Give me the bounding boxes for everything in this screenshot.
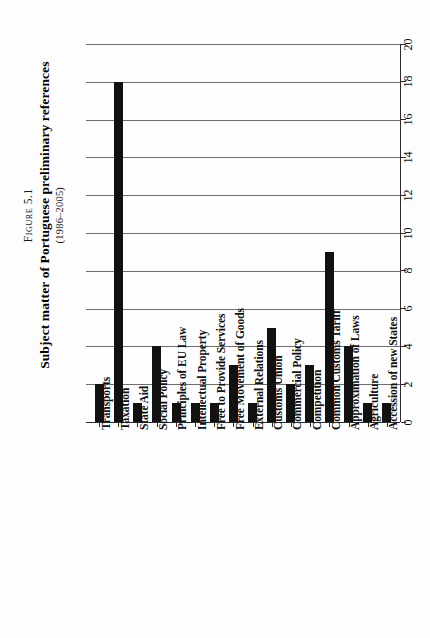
value-tick-label: 4 <box>401 343 416 349</box>
category-slot: Free to Provide Services <box>205 426 224 598</box>
category-slot: Commercial Policy <box>282 426 301 598</box>
value-tick-label: 16 <box>401 114 416 126</box>
category-slot: Free Movement of Goods <box>224 426 243 598</box>
category-label: Common Customs Tariff <box>330 310 342 430</box>
category-slot: Principles of EU Law <box>167 426 186 598</box>
value-tick-label: 20 <box>401 38 416 50</box>
category-slot: Taxation <box>109 426 128 598</box>
category-slot: Social Policy <box>148 426 167 598</box>
bar-slot <box>300 44 319 422</box>
bar[interactable] <box>114 82 123 422</box>
value-tick-label: 6 <box>401 306 416 312</box>
category-slot: External Relations <box>244 426 263 598</box>
category-label: Free Movement of Goods <box>234 308 246 430</box>
bar-slot <box>109 44 128 422</box>
category-label: Taxation <box>119 388 131 430</box>
figure-number-label: Figure 5.1 <box>21 61 35 368</box>
category-slot: State Aid <box>128 426 147 598</box>
category-slot: Intellectual Property <box>186 426 205 598</box>
category-slot: Customs Union <box>263 426 282 598</box>
category-label: Commercial Policy <box>291 338 303 430</box>
category-label: Agriculture <box>368 374 380 430</box>
category-label: Transports <box>100 377 112 430</box>
category-axis-labels: TransportsTaxationState AidSocial Policy… <box>86 426 401 598</box>
value-tick-label: 18 <box>401 76 416 88</box>
category-slot: Accession of new States <box>378 426 397 598</box>
category-label: Customs Union <box>272 356 284 430</box>
category-label: Competition <box>311 370 323 430</box>
figure-title-block: Figure 5.1 Subject matter of Portuguese … <box>12 0 76 430</box>
bar-slot <box>90 44 109 422</box>
category-slot: Transports <box>90 426 109 598</box>
figure-subtitle: (1986–2005) <box>54 61 67 368</box>
category-slot: Common Customs Tariff <box>320 426 339 598</box>
bar-slot <box>128 44 147 422</box>
category-label: Approximation of Laws <box>349 315 361 430</box>
bar-slot <box>147 44 166 422</box>
value-tick-label: 12 <box>401 189 416 201</box>
figure-page: Figure 5.1 Subject matter of Portuguese … <box>0 0 430 638</box>
category-label: Intellectual Property <box>196 330 208 430</box>
value-tick-label: 2 <box>401 381 416 387</box>
value-tick-label: 8 <box>401 268 416 274</box>
category-label: State Aid <box>138 386 150 430</box>
value-tick-label: 14 <box>401 151 416 163</box>
category-label: Social Policy <box>157 369 169 430</box>
value-tick-label: 10 <box>401 227 416 239</box>
category-label: Principles of EU Law <box>176 327 188 430</box>
category-slot: Agriculture <box>359 426 378 598</box>
category-label: External Relations <box>253 340 265 430</box>
category-label: Free to Provide Services <box>215 314 227 430</box>
category-slot: Approximation of Laws <box>339 426 358 598</box>
value-tick-label: 0 <box>401 419 416 425</box>
value-axis-ticks: 02468101214161820 <box>401 44 425 422</box>
bar-chart: 02468101214161820 TransportsTaxationStat… <box>78 34 424 602</box>
category-slot: Competition <box>301 426 320 598</box>
category-label: Accession of new States <box>387 317 399 430</box>
page-title: Subject matter of Portuguese preliminary… <box>37 61 53 368</box>
